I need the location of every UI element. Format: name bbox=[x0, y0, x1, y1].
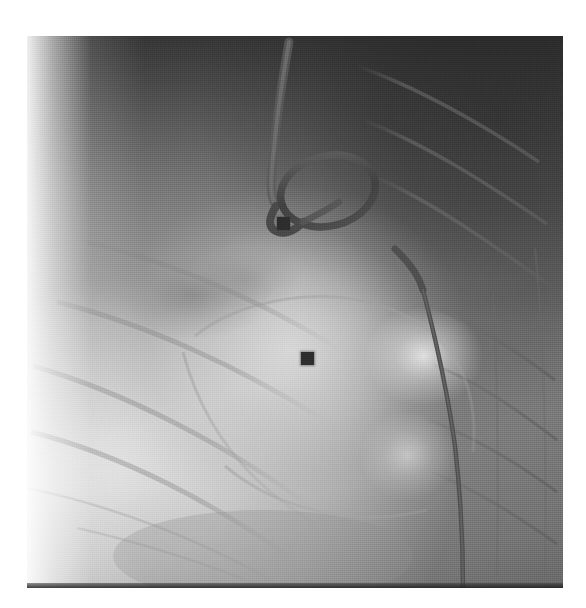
guidewire-descending bbox=[423, 290, 463, 588]
xray-image-frame bbox=[27, 36, 563, 588]
catheter-connector bbox=[303, 202, 339, 222]
radiopaque-marker-lower bbox=[301, 352, 314, 365]
catheter-loop-tail bbox=[395, 249, 423, 290]
radiopaque-marker-upper bbox=[277, 217, 290, 230]
frame-bottom-trim bbox=[27, 583, 563, 588]
image-viewport bbox=[0, 0, 586, 608]
device-overlay bbox=[27, 36, 563, 588]
